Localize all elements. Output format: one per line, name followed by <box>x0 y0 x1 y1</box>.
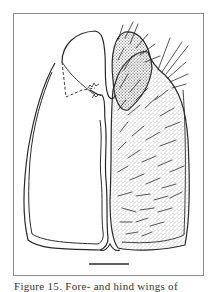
forewing-clear <box>24 31 115 250</box>
hindwing-stippled <box>110 22 189 250</box>
figure-caption: Figure 15. Fore- and hind wings of <box>14 280 178 292</box>
